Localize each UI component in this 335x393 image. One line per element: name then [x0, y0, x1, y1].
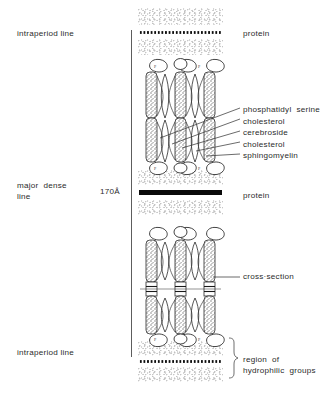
leader-sphingomyelin: [206, 154, 240, 156]
hydrophilic-region-brace: [229, 338, 238, 378]
leader-cerebroside: [182, 131, 240, 148]
leader-cholesterol-outer: [172, 119, 240, 144]
myelin-membrane-diagram: intraperiod line major dense line intrap…: [0, 0, 335, 393]
leader-lines: [0, 0, 335, 393]
leader-cholesterol-inner: [196, 142, 240, 151]
